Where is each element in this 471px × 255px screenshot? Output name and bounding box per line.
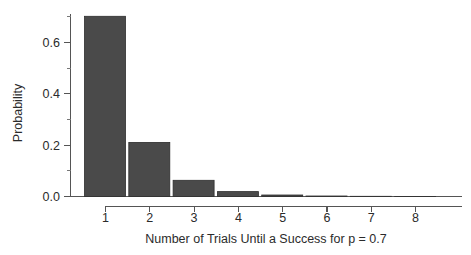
bar-3 bbox=[173, 180, 214, 196]
x-tick-label-1: 1 bbox=[102, 211, 109, 225]
y-tick-label-0.2: 0.2 bbox=[43, 139, 60, 153]
x-axis-title: Number of Trials Until a Success for p =… bbox=[145, 232, 386, 246]
x-tick-label-2: 2 bbox=[146, 211, 153, 225]
x-tick-label-4: 4 bbox=[235, 211, 242, 225]
bar-4 bbox=[217, 192, 258, 197]
geometric-distribution-bar-chart: Probability 0.6 0.4 0.2 0.0 bbox=[0, 0, 471, 255]
bar-2 bbox=[129, 142, 170, 196]
y-tick-label-0.4: 0.4 bbox=[43, 87, 60, 101]
bar-5 bbox=[262, 195, 303, 197]
x-tick-label-7: 7 bbox=[368, 211, 375, 225]
y-tick-label-0.6: 0.6 bbox=[43, 36, 60, 50]
bar-series bbox=[85, 16, 436, 196]
x-tick-label-8: 8 bbox=[412, 211, 419, 225]
x-tick-label-5: 5 bbox=[279, 211, 286, 225]
y-tick-label-0.0: 0.0 bbox=[43, 190, 60, 204]
chart-container: Probability 0.6 0.4 0.2 0.0 bbox=[0, 0, 471, 255]
bar-6 bbox=[306, 196, 347, 197]
bar-1 bbox=[85, 16, 126, 196]
x-tick-label-6: 6 bbox=[324, 211, 331, 225]
y-axis-title: Probability bbox=[11, 83, 25, 142]
x-tick-label-3: 3 bbox=[191, 211, 198, 225]
